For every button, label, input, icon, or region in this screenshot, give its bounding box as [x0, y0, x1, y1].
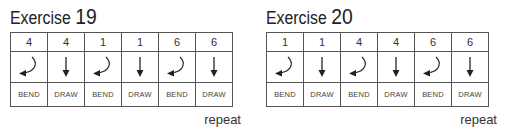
- exercise-19: Exercise 19 4 4 1 1 6 6 BEND DRAW BEND D…: [10, 0, 235, 131]
- action-label: DRAW: [304, 83, 341, 107]
- action-label: DRAW: [48, 83, 85, 107]
- arrow-down-icon: [390, 55, 402, 79]
- action-label: BEND: [11, 83, 48, 107]
- curved-arrow-down-left-icon: [270, 55, 300, 79]
- exercise-label: Exercise: [10, 8, 71, 28]
- curved-arrow-down-left-icon: [344, 55, 374, 79]
- action-label: BEND: [159, 83, 196, 107]
- curved-arrow-down-left-icon: [418, 55, 448, 79]
- arrow-row: [267, 52, 489, 83]
- exercise-label: Exercise: [266, 8, 327, 28]
- arrow-down-icon: [208, 55, 220, 79]
- hole-number: 4: [48, 33, 85, 52]
- arrow-down-icon: [134, 55, 146, 79]
- exercise-number: 20: [331, 4, 353, 29]
- action-label: DRAW: [196, 83, 233, 107]
- hole-number: 1: [122, 33, 159, 52]
- curved-arrow-down-left-icon: [162, 55, 192, 79]
- action-label: DRAW: [122, 83, 159, 107]
- hole-number: 6: [159, 33, 196, 52]
- action-row: BEND DRAW BEND DRAW BEND DRAW: [11, 83, 233, 107]
- exercise-title: Exercise 20: [266, 7, 353, 28]
- hole-number: 6: [415, 33, 452, 52]
- harmonica-tab-table: 1 1 4 4 6 6 BEND DRAW BEND DRAW BEND DRA…: [266, 32, 489, 107]
- harmonica-tab-table: 4 4 1 1 6 6 BEND DRAW BEND DRAW BEND DRA…: [10, 32, 233, 107]
- arrow-down-icon: [464, 55, 476, 79]
- exercise-title: Exercise 19: [10, 7, 97, 28]
- hole-row: 4 4 1 1 6 6: [11, 33, 233, 52]
- hole-number: 4: [11, 33, 48, 52]
- action-label: BEND: [341, 83, 378, 107]
- hole-number: 1: [304, 33, 341, 52]
- hole-number: 6: [196, 33, 233, 52]
- hole-number: 4: [378, 33, 415, 52]
- hole-number: 6: [452, 33, 489, 52]
- exercise-number: 19: [75, 4, 97, 29]
- repeat-label: repeat: [204, 112, 241, 127]
- arrow-down-icon: [60, 55, 72, 79]
- exercise-20: Exercise 20 1 1 4 4 6 6 BEND DRAW BEND D…: [266, 0, 491, 131]
- arrow-down-icon: [316, 55, 328, 79]
- hole-number: 1: [85, 33, 122, 52]
- action-row: BEND DRAW BEND DRAW BEND DRAW: [267, 83, 489, 107]
- repeat-label: repeat: [460, 112, 497, 127]
- action-label: BEND: [85, 83, 122, 107]
- hole-row: 1 1 4 4 6 6: [267, 33, 489, 52]
- action-label: BEND: [415, 83, 452, 107]
- hole-number: 4: [341, 33, 378, 52]
- curved-arrow-down-left-icon: [88, 55, 118, 79]
- action-label: DRAW: [452, 83, 489, 107]
- arrow-row: [11, 52, 233, 83]
- action-label: BEND: [267, 83, 304, 107]
- curved-arrow-down-left-icon: [14, 55, 44, 79]
- action-label: DRAW: [378, 83, 415, 107]
- hole-number: 1: [267, 33, 304, 52]
